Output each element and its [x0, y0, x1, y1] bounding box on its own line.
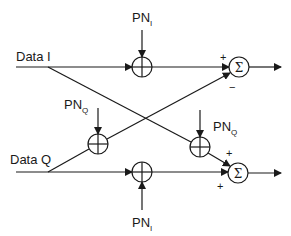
bottom-sum-icon: Σ [228, 163, 248, 183]
bottom-pn-i-label: PNI [132, 215, 152, 233]
top-sum-minus-sign: − [229, 81, 235, 93]
data-q-cross-line-upper [107, 73, 230, 139]
left-xor-icon [88, 134, 108, 154]
bottom-sum-plus-upper: + [226, 147, 232, 159]
data-i-label: Data I [16, 49, 51, 64]
right-pn-q-label: PNQ [213, 119, 237, 137]
bottom-sum-plus-lower: + [217, 180, 223, 192]
top-sum-icon: Σ [229, 57, 249, 77]
top-sum-plus-sign: + [220, 51, 226, 63]
right-xor-icon [190, 137, 210, 157]
left-pn-q-label: PNQ [64, 97, 88, 115]
svg-text:Σ: Σ [234, 167, 242, 181]
svg-text:Σ: Σ [235, 61, 243, 75]
top-pn-i-label: PNI [132, 10, 152, 28]
top-xor-icon [132, 57, 152, 77]
bottom-xor-icon [132, 162, 152, 182]
data-q-label: Data Q [10, 152, 51, 167]
qpsk-spreading-diagram: Data I PNI Σ + − Data Q PNQ PNQ [0, 0, 291, 236]
data-q-cross-line-lower [48, 149, 89, 172]
